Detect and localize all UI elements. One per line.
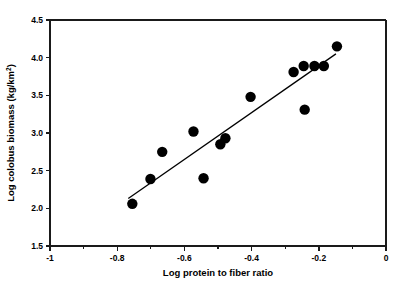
data-point [298,61,308,71]
x-tick-label: -0.4 [244,253,259,263]
data-point [299,104,309,114]
y-tick-label: 1.5 [31,241,43,251]
y-tick-label: 2.0 [31,203,43,213]
y-tick-label: 3.5 [31,90,43,100]
x-axis-ticks: -1-0.8-0.6-0.4-0.20 [46,246,388,263]
scatter-plot: 1.52.02.53.03.54.04.5 -1-0.8-0.6-0.4-0.2… [0,0,403,291]
data-point [127,199,137,209]
x-tick-label: -0.8 [110,253,125,263]
x-tick-label: 0 [384,253,389,263]
data-point [157,147,167,157]
figure-caption-fragment [0,275,403,291]
data-point [198,173,208,183]
data-point [220,133,230,143]
y-tick-label: 4.5 [31,15,43,25]
y-axis-title: Log colobus biomass (kg/km2) [5,64,16,202]
data-point [145,174,155,184]
y-tick-label: 4.0 [31,53,43,63]
data-point [245,92,255,102]
data-point [188,126,198,136]
y-axis-ticks: 1.52.02.53.03.54.04.5 [31,15,50,251]
data-point [288,67,298,77]
data-point [332,41,342,51]
data-point [309,61,319,71]
regression-trend-line [128,54,336,199]
y-tick-label: 2.5 [31,166,43,176]
x-tick-label: -0.6 [177,253,192,263]
data-point [319,61,329,71]
figure-container: 1.52.02.53.03.54.04.5 -1-0.8-0.6-0.4-0.2… [0,0,403,291]
trend-line-group [128,54,336,199]
y-tick-label: 3.0 [31,128,43,138]
x-tick-label: -1 [46,253,54,263]
x-tick-label: -0.2 [311,253,326,263]
